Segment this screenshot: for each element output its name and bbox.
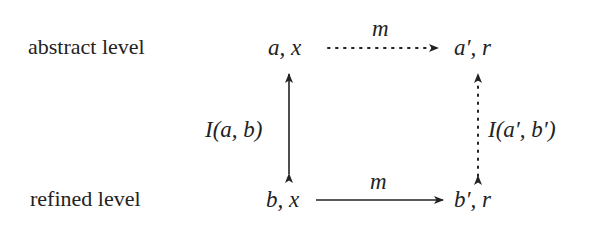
- node-refined-source: b, x: [266, 188, 299, 211]
- node-refined-target: b′, r: [454, 188, 491, 211]
- left-edge-label: I(a, b): [205, 118, 262, 141]
- node-abstract-source: a, x: [268, 36, 301, 59]
- commutative-diagram: abstract level refined level a, x a′, r …: [0, 0, 601, 226]
- right-edge-label: I(a′, b′): [488, 118, 556, 141]
- node-abstract-target: a′, r: [454, 36, 491, 59]
- refined-level-label: refined level: [30, 188, 141, 210]
- abstract-level-label: abstract level: [28, 36, 145, 58]
- bottom-edge-label: m: [370, 170, 387, 193]
- top-edge-label: m: [372, 17, 389, 40]
